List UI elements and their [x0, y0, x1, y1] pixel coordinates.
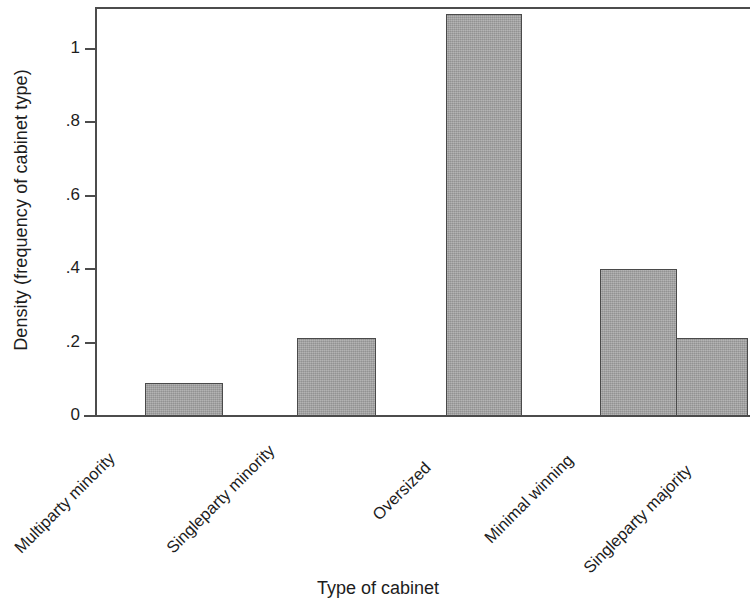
bar-minimal-winning [600, 269, 677, 416]
bar-multiparty-minority [145, 383, 223, 416]
x-tick-label-minimal-winning: Minimal winning [481, 451, 577, 547]
y-tick-mark-2 [85, 268, 96, 270]
chart-figure: Density (frequency of cabinet type) 0 .2… [0, 0, 756, 612]
y-tick-mark-0 [85, 415, 96, 417]
x-tick-label-oversized: Oversized [369, 458, 435, 524]
y-tick-label-3: .6 [54, 185, 80, 205]
y-tick-mark-3 [85, 195, 96, 197]
x-tick-label-singleparty-minority: Singleparty minority [163, 441, 279, 557]
y-tick-mark-4 [85, 121, 96, 123]
y-tick-label-5: 1 [54, 38, 80, 58]
x-tick-label-multiparty-minority: Multiparty minority [11, 449, 119, 557]
bar-singleparty-majority [676, 338, 748, 416]
y-tick-label-1: .2 [54, 332, 80, 352]
y-tick-label-0: 0 [54, 405, 80, 425]
x-axis-title: Type of cabinet [0, 578, 756, 599]
y-tick-mark-1 [85, 342, 96, 344]
bar-singleparty-minority [297, 338, 376, 416]
x-tick-label-singleparty-majority: Singleparty majority [580, 461, 696, 577]
y-axis-title: Density (frequency of cabinet type) [4, 0, 38, 420]
y-tick-label-2: .4 [54, 258, 80, 278]
bar-oversized [446, 14, 522, 416]
y-tick-mark-5 [85, 48, 96, 50]
y-tick-label-4: .8 [54, 111, 80, 131]
